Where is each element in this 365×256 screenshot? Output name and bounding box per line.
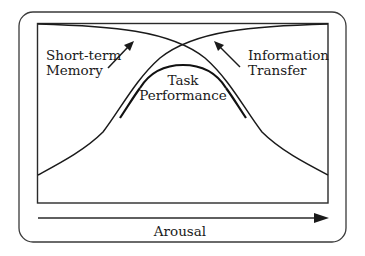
- arousal-diagram: Short-term Memory Information Transfer T…: [0, 0, 365, 256]
- task-performance-right-fall: [226, 88, 246, 118]
- label-memory: Memory: [46, 62, 103, 78]
- diagram-stage: Short-term Memory Information Transfer T…: [0, 0, 365, 256]
- label-information: Information: [248, 47, 329, 63]
- arousal-axis-arrowhead: [314, 213, 329, 223]
- label-transfer: Transfer: [248, 62, 307, 78]
- label-task: Task: [167, 72, 199, 88]
- info-transfer-arrow-line: [220, 47, 240, 67]
- label-performance: Performance: [139, 87, 227, 103]
- label-short-term: Short-term: [46, 47, 121, 63]
- label-arousal: Arousal: [153, 223, 206, 239]
